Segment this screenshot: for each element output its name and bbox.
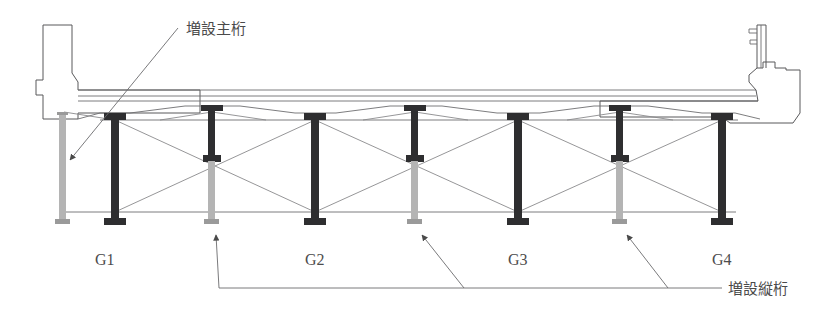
added-girder-1 — [201, 105, 223, 224]
existing-girders — [104, 113, 733, 225]
added-main-girder-left — [55, 112, 70, 224]
label-added-main-girder: 増設主桁 — [186, 20, 246, 38]
added-girder-3 — [609, 105, 631, 224]
leader-stringer-1 — [216, 235, 219, 288]
bridge-cross-section-drawing: 増設主桁 増設縦桁 G1 G2 G3 G4 — [0, 0, 825, 320]
added-girders — [55, 105, 631, 224]
label-girder-g1: G1 — [95, 251, 115, 268]
left-parapet — [36, 25, 200, 119]
label-girder-g4: G4 — [712, 251, 732, 268]
label-added-stringer: 増設縦桁 — [728, 280, 788, 298]
label-girder-g2: G2 — [305, 251, 325, 268]
leader-added-main-girder — [70, 28, 178, 160]
label-girder-g3: G3 — [508, 251, 528, 268]
added-girder-2 — [404, 105, 426, 224]
leader-stringer-3 — [627, 235, 668, 288]
leader-stringer-2 — [422, 235, 464, 288]
